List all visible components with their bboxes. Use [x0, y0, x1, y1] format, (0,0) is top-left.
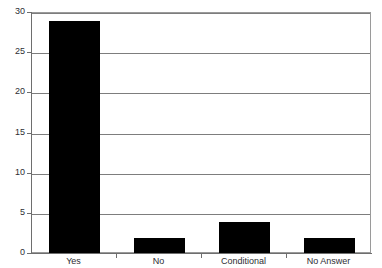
- y-tick-15: [27, 133, 31, 134]
- y-tick-label-5: 5: [1, 208, 25, 217]
- x-tick-label-no: No: [116, 256, 201, 267]
- bar-conditional: [219, 222, 270, 254]
- y-tick-label-15: 15: [1, 128, 25, 137]
- y-tick-label-30: 30: [1, 7, 25, 16]
- y-tick-label-0: 0: [1, 248, 25, 257]
- y-tick-label-25: 25: [1, 47, 25, 56]
- chart-title-cropped: [0, 0, 382, 5]
- y-tick-label-10: 10: [1, 168, 25, 177]
- y-tick-label-20: 20: [1, 87, 25, 96]
- bar-chart: 051015202530 YesNoConditionalNo Answer: [0, 0, 382, 268]
- x-tick-label-conditional: Conditional: [201, 256, 286, 267]
- y-tick-10: [27, 173, 31, 174]
- bar-no: [134, 238, 185, 254]
- y-tick-25: [27, 52, 31, 53]
- gridline-30: [32, 13, 370, 14]
- x-tick-label-yes: Yes: [31, 256, 116, 267]
- x-tick-label-no-answer: No Answer: [286, 256, 371, 267]
- bar-no-answer: [304, 238, 355, 254]
- bar-yes: [49, 21, 100, 254]
- y-axis: [31, 12, 32, 254]
- plot-area: [31, 12, 371, 253]
- y-tick-30: [27, 12, 31, 13]
- y-tick-20: [27, 92, 31, 93]
- y-tick-5: [27, 213, 31, 214]
